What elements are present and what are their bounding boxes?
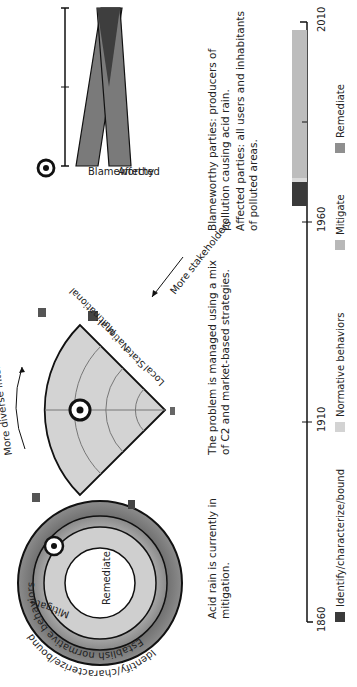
tick-1860: 1860: [316, 607, 327, 632]
parties-caption: Blameworthy parties: producers of pollut…: [206, 11, 260, 231]
phase-caption: Acid rain is currently in mitigation.: [206, 498, 232, 619]
legend-label-remediate: Remediate: [335, 84, 346, 138]
people-icon-left: [128, 500, 135, 509]
acid-rain-figure: Identify/characterize/bound Establish no…: [0, 0, 357, 687]
level-local: Local: [141, 363, 166, 388]
tick-1910: 1910: [316, 407, 327, 432]
person-icon-local: [170, 407, 175, 415]
scale-caption: The problem is managed using a mix of C2…: [206, 260, 232, 455]
legend: Identify/characterize/bound Normative be…: [335, 84, 346, 622]
legend-swatch-identify: [335, 612, 345, 622]
legend-swatch-mitigate: [335, 240, 345, 250]
phase-circles: Identify/characterize/bound Establish no…: [18, 501, 182, 680]
target-icon: [45, 537, 63, 555]
legend-label-identify: Identify/characterize/bound: [335, 469, 346, 607]
ring-label-remediate: Remediate: [101, 551, 112, 605]
segment-normative: [292, 178, 307, 182]
parties-chart: Blameworthy Affected: [38, 8, 160, 177]
segment-identify: [292, 182, 307, 206]
label-affected: Affected: [118, 166, 160, 177]
tick-1960: 1960: [316, 207, 327, 232]
legend-swatch-normative: [335, 422, 345, 432]
target-icon: [70, 400, 90, 420]
timeline: 1860 1910 1960 2010: [292, 7, 327, 632]
legend-label-mitigate: Mitigate: [335, 194, 346, 235]
segment-mitigate: [292, 30, 307, 178]
scale-fan: Local State National Multinational More …: [0, 217, 233, 509]
more-diverse-interests-arrow: More diverse interests: [0, 344, 25, 456]
people-icon-upper: [32, 493, 40, 502]
figure-graphics: Identify/characterize/bound Establish no…: [0, 0, 357, 687]
svg-text:More diverse interests: More diverse interests: [0, 344, 14, 456]
legend-swatch-remediate: [335, 143, 345, 153]
people-icon-right: [38, 308, 46, 317]
target-icon: [38, 160, 54, 176]
legend-label-normative: Normative behaviors: [335, 313, 346, 417]
tick-2010: 2010: [316, 7, 327, 32]
